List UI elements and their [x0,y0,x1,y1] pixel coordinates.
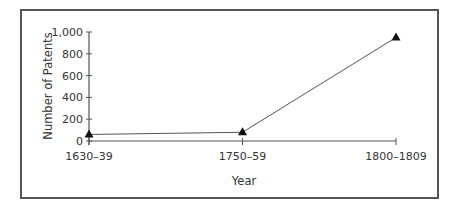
y-tick-label: 200 [62,113,83,126]
line-chart: 02004006008001,000 1630–391750–591800–18… [0,0,459,207]
y-axis: 02004006008001,000 [52,26,93,148]
x-axis: 1630–391750–591800–1809 [65,138,427,163]
y-tick-label: 1,000 [52,26,84,39]
y-tick-label: 400 [62,91,83,104]
x-axis-title: Year [231,174,257,188]
triangle-marker-icon [85,129,94,137]
x-tick-label: 1800–1809 [365,150,427,163]
x-tick-label: 1750–59 [219,150,267,163]
series-line [89,37,396,134]
x-tick-label: 1630–39 [65,150,113,163]
triangle-marker-icon [392,32,401,40]
y-tick-label: 600 [62,70,83,83]
y-tick-label: 0 [76,135,83,148]
y-axis-title: Number of Patents [41,32,55,139]
y-tick-label: 800 [62,48,83,61]
data-series [85,32,401,137]
triangle-marker-icon [238,127,247,135]
